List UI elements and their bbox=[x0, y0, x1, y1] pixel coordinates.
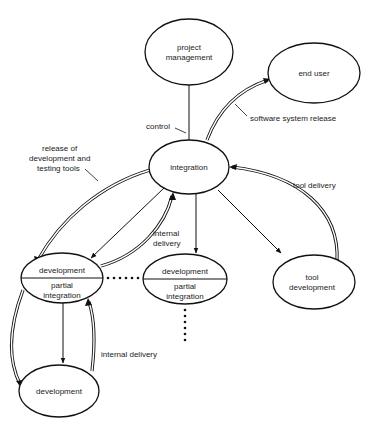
edge-label-software-release: software system release bbox=[250, 114, 337, 123]
node-dev-left-bottom2: integration bbox=[43, 291, 80, 300]
edge-label-release-line3: testing tools bbox=[37, 164, 80, 173]
dotted-link-vertical bbox=[184, 309, 187, 342]
edge-label-tool-delivery: tool delivery bbox=[293, 181, 336, 190]
edge-label-internal-delivery-bottom: internal delivery bbox=[101, 350, 157, 359]
node-dev-left-bottom1: partial bbox=[51, 281, 73, 290]
edge-integration-to-tool-dev bbox=[218, 190, 281, 253]
edge-left-to-bottom-double bbox=[11, 290, 23, 388]
edge-label-internal-line1: internal bbox=[153, 229, 179, 238]
node-integration: integration bbox=[149, 140, 229, 194]
edge-label-control: control bbox=[146, 122, 170, 131]
node-project-management-line2: management bbox=[166, 53, 213, 62]
software-integration-diagram: control software system release release … bbox=[0, 0, 366, 430]
node-dev-bottom: development bbox=[19, 365, 99, 417]
dotted-link-horizontal bbox=[107, 277, 140, 280]
edge-label-release-line1: release of bbox=[42, 144, 78, 153]
node-project-management: project management bbox=[145, 19, 233, 85]
node-integration-label: integration bbox=[170, 163, 207, 172]
edge-label-release-line2: development and bbox=[29, 154, 90, 163]
node-dev-center: development partial integration bbox=[143, 254, 227, 304]
node-dev-left-top: development bbox=[39, 266, 86, 275]
node-dev-bottom-label: development bbox=[36, 387, 83, 396]
edge-release-tools: release of development and testing tools bbox=[29, 144, 150, 264]
node-dev-center-top: development bbox=[162, 267, 209, 276]
edge-internal-delivery-bottom: internal delivery bbox=[85, 298, 157, 371]
node-tool-development-line2: development bbox=[289, 283, 336, 292]
node-project-management-line1: project bbox=[177, 43, 202, 52]
node-end-user-label: end user bbox=[298, 69, 329, 78]
edge-label-internal-line2: delivery bbox=[153, 239, 181, 248]
node-end-user: end user bbox=[268, 43, 360, 103]
edge-internal-delivery-top: internal delivery bbox=[101, 192, 181, 266]
node-tool-development-line1: tool bbox=[306, 273, 319, 282]
node-dev-center-bottom2: integration bbox=[166, 292, 203, 301]
node-dev-center-bottom1: partial bbox=[174, 282, 196, 291]
node-tool-development: tool development bbox=[273, 255, 355, 309]
node-dev-left: development partial integration bbox=[21, 253, 103, 303]
edge-tool-delivery: tool delivery bbox=[229, 164, 337, 262]
